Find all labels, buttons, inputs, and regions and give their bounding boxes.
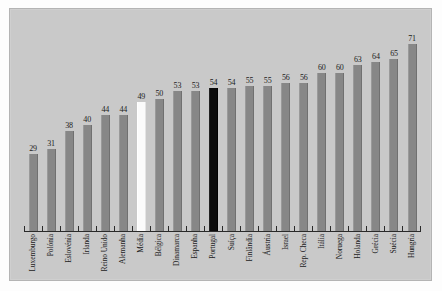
bar — [281, 83, 290, 231]
bar-slot: 44 — [96, 21, 114, 231]
category-label-slot: Bélgica — [150, 234, 168, 286]
bar — [263, 86, 272, 231]
category-label-slot: Suíça — [223, 234, 241, 286]
bar — [47, 149, 56, 231]
bar — [389, 59, 398, 231]
bar — [371, 62, 380, 231]
category-label-slot: Luxemburgo — [24, 234, 42, 286]
category-label-slot: Reino Unido — [96, 234, 114, 286]
category-label-slot: Holanda — [349, 234, 367, 286]
category-label-slot: Alemanha — [114, 234, 132, 286]
category-label-slot: Rep. Checa — [295, 234, 313, 286]
bar-highlight — [209, 88, 218, 231]
bar-slot: 56 — [295, 21, 313, 231]
bar-slot: 49 — [132, 21, 150, 231]
bar-value-label: 44 — [119, 105, 127, 114]
bar-value-label: 53 — [192, 81, 200, 90]
bar — [353, 65, 362, 231]
chart-screenshot: 2931384044444950535354545555565660606364… — [0, 0, 442, 291]
bar — [227, 88, 236, 231]
category-label: Média — [137, 234, 145, 253]
bar — [119, 115, 128, 231]
category-label: Grécia — [372, 234, 380, 253]
bar-value-label: 56 — [282, 73, 290, 82]
bar-value-label: 49 — [138, 92, 146, 101]
bar-value-label: 44 — [101, 105, 109, 114]
category-label-slot: Finlândia — [241, 234, 259, 286]
x-axis-line — [24, 231, 421, 232]
category-label: Eslovénia — [65, 234, 73, 263]
bar-slot: 53 — [168, 21, 186, 231]
bar — [408, 44, 417, 231]
bar — [155, 99, 164, 231]
bar — [29, 154, 38, 231]
category-label: Polónia — [47, 234, 55, 256]
category-label: Alemanha — [119, 234, 127, 264]
category-label: Rep. Checa — [300, 234, 308, 268]
category-label-slot: Polónia — [42, 234, 60, 286]
category-label: Finlândia — [246, 234, 254, 261]
bar-slot: 50 — [150, 21, 168, 231]
bar-value-label: 29 — [29, 144, 37, 153]
bar-slot: 54 — [204, 21, 222, 231]
bar-value-label: 64 — [372, 52, 380, 61]
bar-value-label: 54 — [210, 78, 218, 87]
category-label-slot: Grécia — [367, 234, 385, 286]
bar-slot: 54 — [223, 21, 241, 231]
bar-slot: 60 — [331, 21, 349, 231]
category-label-slot: Suécia — [385, 234, 403, 286]
bar-value-label: 55 — [246, 76, 254, 85]
category-label: Bélgica — [155, 234, 163, 256]
category-label-slot: Israel — [277, 234, 295, 286]
category-label: Suíça — [228, 234, 236, 250]
category-label-slot: Dinamarca — [168, 234, 186, 286]
bar — [101, 115, 110, 231]
category-label: Irlanda — [83, 234, 91, 255]
category-label: Portugal — [209, 234, 217, 259]
bar-slot: 65 — [385, 21, 403, 231]
category-label-slot: Eslovénia — [60, 234, 78, 286]
category-label: Itália — [318, 234, 326, 249]
bar-slot: 56 — [277, 21, 295, 231]
bar-value-label: 55 — [264, 76, 272, 85]
category-label-slot: Noruega — [331, 234, 349, 286]
category-label: Espanha — [191, 234, 199, 259]
bar-value-label: 38 — [65, 121, 73, 130]
bar-slot: 31 — [42, 21, 60, 231]
bar-slot: 38 — [60, 21, 78, 231]
category-label: Holanda — [354, 234, 362, 259]
bar-value-label: 71 — [408, 34, 416, 43]
bar — [83, 125, 92, 231]
bar-slot: 64 — [367, 21, 385, 231]
category-label-slot: Hungria — [403, 234, 421, 286]
category-label-slot: Itália — [313, 234, 331, 286]
bar-value-label: 31 — [47, 139, 55, 148]
bar-slot: 63 — [349, 21, 367, 231]
bar — [191, 91, 200, 231]
bar — [317, 73, 326, 231]
bar-slot: 55 — [259, 21, 277, 231]
category-label-slot: Média — [132, 234, 150, 286]
bar — [335, 73, 344, 231]
category-label: Israel — [282, 234, 290, 250]
bar-series: 2931384044444950535354545555565660606364… — [24, 21, 421, 231]
category-label-slot: Espanha — [186, 234, 204, 286]
bar-value-label: 54 — [228, 78, 236, 87]
category-label: Luxemburgo — [29, 234, 37, 272]
bar — [299, 83, 308, 231]
bar — [173, 91, 182, 231]
category-label-slot: Portugal — [204, 234, 222, 286]
category-label-slot: Áustria — [259, 234, 277, 286]
bar-value-label: 60 — [336, 63, 344, 72]
category-label: Dinamarca — [173, 234, 181, 266]
plot-area: 2931384044444950535354545555565660606364… — [24, 21, 421, 231]
bar-value-label: 65 — [390, 49, 398, 58]
category-label-slot: Irlanda — [78, 234, 96, 286]
chart-plate: 2931384044444950535354545555565660606364… — [9, 8, 432, 281]
bar-average — [137, 102, 146, 231]
bar — [245, 86, 254, 231]
bar-value-label: 60 — [318, 63, 326, 72]
bar-slot: 44 — [114, 21, 132, 231]
category-label: Hungria — [408, 234, 416, 258]
bar — [65, 131, 74, 231]
